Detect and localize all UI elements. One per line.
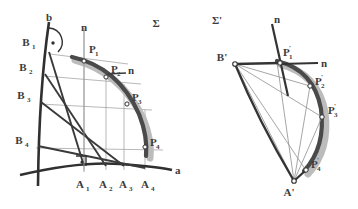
label-a3: A [119,178,127,190]
labels-a-points: A 1 A 2 A 3 A 4 [76,178,155,193]
label-p2prime-mark: ' [321,73,323,81]
label-b2-sub: 2 [29,68,33,76]
label-p1prime-sub: 1 [289,53,293,61]
label-b1-sub: 1 [32,43,36,51]
point-marker-p4prime [304,168,308,172]
label-p4-sub: 4 [156,143,160,151]
label-b3-sub: 3 [27,96,31,104]
label-a4-sub: 4 [151,185,155,193]
point-marker-p2prime [308,84,312,88]
label-normal-n-left-secondary: n [128,64,134,76]
point-marker-p1prime [278,61,282,65]
label-bprime: B' [217,51,227,63]
label-a2: A [99,178,107,190]
label-b4-sub: 4 [25,141,29,149]
edge-bprime-p1prime [235,63,280,64]
right-angle-arc-b1 [49,28,62,52]
right-angle-dot-a1 [80,160,83,163]
right-angle-dot-b1 [51,41,54,44]
label-p2prime-sub: 2 [321,82,325,90]
normal-segment-n-right [280,63,318,64]
panel-left: b a n n Σ B 1 B 2 B 3 B 4 A 1 A 2 [15,11,181,193]
label-a4: A [141,178,149,190]
label-plane-sigma: Σ [152,17,159,29]
label-a1: A [76,178,84,190]
point-marker-aprime [292,179,297,184]
label-p4prime-mark: ' [317,156,319,164]
label-normal-n-right-secondary: n [321,57,327,69]
label-line-b: b [46,11,52,23]
ray-bprime-p4 [235,64,305,169]
line-a [20,163,172,175]
label-b1: B [22,36,30,48]
label-normal-n-left: n [81,21,87,33]
label-line-a: a [175,164,181,176]
label-b2: B [19,61,27,73]
label-p1-sub: 1 [95,50,99,58]
outline-edges-right [235,63,306,181]
label-a3-sub: 3 [129,185,133,193]
point-marker-bprime [233,62,238,67]
point-marker-p2 [104,75,108,79]
label-p2-sub: 2 [117,70,121,78]
label-plane-sigma-prime: Σ' [212,14,222,26]
label-b3: B [17,89,25,101]
point-marker-p3 [125,102,129,106]
label-p3prime-mark: ' [334,102,336,110]
label-b4: B [15,134,23,146]
label-a2-sub: 2 [109,185,113,193]
point-marker-p1 [82,59,86,63]
point-marker-p3prime [320,115,324,119]
label-normal-n-right: n [274,13,280,25]
diagram-canvas: b a n n Σ B 1 B 2 B 3 B 4 A 1 A 2 [0,0,358,209]
label-p4prime-sub: 4 [317,165,321,173]
point-marker-p4 [143,145,147,149]
geometry-figure: b a n n Σ B 1 B 2 B 3 B 4 A 1 A 2 [0,0,358,209]
label-a1-sub: 1 [86,185,90,193]
label-p3prime-sub: 3 [334,111,338,119]
panel-right: Σ' n n B' A' P 1 ' P 2 ' P 3 ' P 4 ' [212,13,338,198]
chord-b2-a2 [45,74,106,166]
labels-b-points: B 1 B 2 B 3 B 4 [15,36,36,149]
label-aprime: A' [284,186,295,198]
label-p3-sub: 3 [138,98,142,106]
label-p1prime-mark: ' [289,44,291,52]
